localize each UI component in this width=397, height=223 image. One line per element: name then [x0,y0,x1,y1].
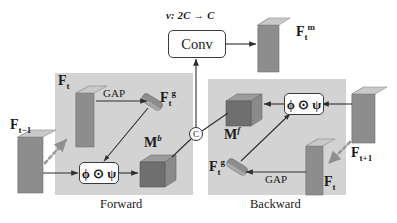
backward-mask-label: Mf [224,128,240,142]
input-prev-sub: t−1 [19,125,32,135]
backward-global-base: F [209,159,218,174]
backward-gap-label: GAP [265,174,287,185]
forward-global-sup: g [172,88,176,98]
conv-block-label: Conv [181,37,212,52]
backward-mask-base: M [224,127,237,142]
forward-feature-sub: t [67,81,70,91]
forward-global-label: Ftg [160,91,176,105]
figure-canvas: Conv v: 2C → C ϕ ⊙ ψ ϕ ⊙ ψ C Ft−1 Ft GAP… [0,0,397,223]
forward-gap-label: GAP [103,88,125,99]
backward-global-label: Ftg [209,160,225,174]
forward-op-label: ϕ ⊙ ψ [82,167,117,180]
backward-mask-cube [226,94,262,126]
forward-gap-text: GAP [103,87,125,99]
backward-gap-text: GAP [265,173,287,185]
backward-panel-caption: Backward [250,198,301,211]
forward-mask-label: Mb [144,136,162,150]
input-prev-base: F [10,117,19,132]
output-feature-sub: t [305,32,308,42]
forward-mask-base: M [144,135,157,150]
input-next-slab [352,87,387,143]
backward-op-block[interactable]: ϕ ⊙ ψ [284,93,324,115]
output-feature-base: F [296,24,305,39]
forward-mask-cube [140,155,176,187]
input-next-base: F [351,145,360,160]
backward-op-label: ϕ ⊙ ψ [287,98,322,111]
forward-caption-text: Forward [100,197,142,211]
output-feature-sup: m [308,22,315,32]
input-next-sub: t+1 [360,153,373,163]
backward-global-sup: g [221,157,225,167]
forward-global-sub: t [169,98,172,108]
input-prev-slab [18,130,56,193]
output-feature-label: Ftm [296,25,315,39]
backward-feature-sub: t [333,182,336,192]
concat-label: C [193,129,199,139]
backward-mask-sup: f [237,125,240,135]
forward-feature-base: F [58,73,67,88]
backward-caption-text: Backward [250,197,301,211]
concat-circle-icon[interactable]: C [189,127,203,141]
conv-block[interactable]: Conv [168,30,226,58]
backward-feature-label: Ft [324,175,336,189]
conv-annotation-text: v: 2C → C [166,10,215,21]
backward-global-sub: t [218,167,221,177]
forward-feature-label: Ft [58,74,70,88]
output-feature-slab [258,18,290,72]
forward-mask-sup: b [157,133,161,143]
backward-feature-base: F [324,174,333,189]
input-next-label: Ft+1 [351,146,372,160]
input-prev-label: Ft−1 [10,118,31,132]
forward-op-block[interactable]: ϕ ⊙ ψ [79,162,119,184]
forward-panel-caption: Forward [100,198,142,211]
forward-global-base: F [160,90,169,105]
conv-annotation: v: 2C → C [166,11,215,22]
